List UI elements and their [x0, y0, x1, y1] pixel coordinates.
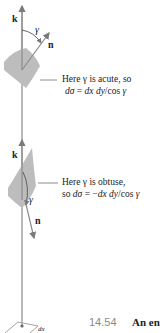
annotation-obtuse-line2: so dσ = −dx dy/cos γ	[62, 189, 139, 200]
gamma-label-bottom: γ	[29, 194, 33, 205]
n-label-top: n	[48, 39, 54, 50]
annotation-acute-line1: Here γ is acute, so	[62, 74, 131, 85]
annotation-acute-line2: dσ = dx dy/cos γ	[65, 86, 126, 97]
figure-diagram	[0, 0, 165, 333]
n-vector-bottom	[25, 200, 34, 238]
annotation-obtuse-line1: Here γ is obtuse,	[62, 177, 125, 188]
figure-caption: An en	[132, 316, 160, 328]
base-point	[20, 324, 23, 327]
dx-label: dx	[38, 324, 45, 333]
n-label-bottom: n	[35, 215, 41, 226]
k-label-top: k	[12, 13, 18, 24]
figure-number: 14.54	[89, 316, 117, 328]
gamma-label-top: γ	[35, 24, 39, 35]
k-label-bottom: k	[12, 149, 18, 160]
